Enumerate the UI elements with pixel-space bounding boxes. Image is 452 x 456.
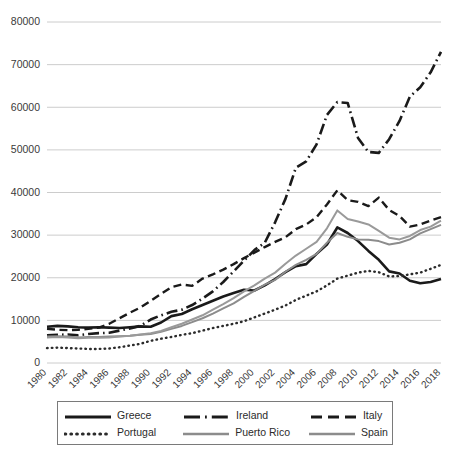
legend-label-greece: Greece [117, 409, 151, 421]
legend-swatch-ireland [183, 409, 231, 421]
series-lines-group [47, 52, 441, 349]
x-axis-tick-label: 1990 [129, 366, 153, 390]
legend-swatch-spain [308, 426, 356, 438]
gridlines-group [47, 22, 441, 363]
x-axis-tick-label: 2008 [315, 366, 339, 390]
chart-plot-area: 8000070000600005000040000300002000010000… [0, 0, 452, 400]
x-axis-tick-label: 2012 [357, 366, 381, 390]
x-axis-tick-label: 2014 [377, 366, 401, 390]
y-axis-tick-label: 60000 [11, 101, 40, 113]
x-axis-tick-label: 1992 [149, 366, 173, 390]
y-axis-tick-label: 70000 [11, 58, 40, 70]
y-axis-tick-label: 50000 [11, 143, 40, 155]
x-axis-tick-label: 1984 [66, 366, 90, 390]
legend-item-spain[interactable]: Spain [308, 423, 386, 440]
x-axis-tick-label: 1986 [87, 366, 111, 390]
legend-label-puerto-rico: Puerto Rico [235, 426, 290, 438]
legend-item-puerto-rico[interactable]: Puerto Rico [182, 423, 308, 440]
legend-swatch-puerto-rico [182, 426, 230, 438]
y-axis-tick-label: 20000 [11, 271, 40, 283]
x-axis-tick-label: 1998 [212, 366, 236, 390]
x-axis-tick-label: 2018 [419, 366, 443, 390]
line-chart: 8000070000600005000040000300002000010000… [0, 0, 452, 456]
x-axis-tick-label: 1994 [170, 366, 194, 390]
legend-row-1: Greece Ireland Italy [64, 406, 386, 423]
legend-item-portugal[interactable]: Portugal [64, 423, 182, 440]
legend-label-ireland: Ireland [236, 409, 268, 421]
x-axis-tick-label: 1980 [25, 366, 49, 390]
x-axis-tick-labels: 1980198219841986198819901992199419961998… [25, 366, 443, 390]
series-line-ireland [47, 52, 441, 335]
legend-swatch-greece [64, 409, 112, 421]
legend-item-ireland[interactable]: Ireland [183, 406, 310, 423]
x-axis-tick-label: 1988 [108, 366, 132, 390]
chart-legend: Greece Ireland Italy Portugal Puerto Ric… [57, 401, 393, 445]
legend-swatch-italy [310, 409, 358, 421]
y-axis-tick-label: 80000 [11, 15, 40, 27]
legend-label-italy: Italy [363, 409, 382, 421]
legend-item-italy[interactable]: Italy [310, 406, 386, 423]
y-axis-tick-label: 40000 [11, 186, 40, 198]
x-axis-tick-label: 2010 [336, 366, 360, 390]
series-line-spain [47, 210, 441, 338]
x-axis-tick-label: 2000 [232, 366, 256, 390]
legend-item-greece[interactable]: Greece [64, 406, 183, 423]
x-axis-tick-label: 2004 [274, 366, 298, 390]
x-axis-tick-label: 2002 [253, 366, 277, 390]
y-axis-tick-label: 10000 [11, 314, 40, 326]
x-axis-tick-label: 2016 [398, 366, 422, 390]
x-axis-tick-label: 1982 [46, 366, 70, 390]
x-axis-tick-label: 2006 [295, 366, 319, 390]
legend-label-spain: Spain [361, 426, 388, 438]
legend-swatch-portugal [64, 426, 112, 438]
y-axis-tick-label: 30000 [11, 228, 40, 240]
x-axis-tick-label: 1996 [191, 366, 215, 390]
legend-row-2: Portugal Puerto Rico Spain [64, 423, 386, 440]
y-axis-tick-labels: 8000070000600005000040000300002000010000… [11, 15, 40, 368]
legend-label-portugal: Portugal [117, 426, 156, 438]
series-line-italy [47, 190, 441, 330]
y-axis-tick-label: 0 [34, 356, 40, 368]
